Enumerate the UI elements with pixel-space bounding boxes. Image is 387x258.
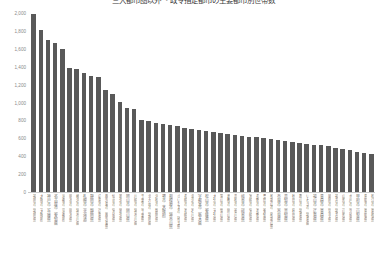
y-axis-tick-label: 1,400 (0, 64, 26, 69)
x-axis-tick-label: 青森市（青森県） (319, 194, 324, 254)
y-axis-tick-label: 1,600 (0, 46, 26, 51)
x-axis-tick-label: 金沢市（石川県） (189, 194, 194, 254)
x-axis-line (28, 192, 375, 193)
y-axis-tick-label: 200 (0, 172, 26, 177)
x-axis-tick-label: 大阪市（大阪府） (38, 194, 43, 254)
bar (154, 123, 158, 192)
bar-series (30, 13, 375, 192)
x-axis-tick-label: 相模原市（神奈川県） (168, 194, 173, 254)
y-axis-tick-label: 1,800 (0, 28, 26, 33)
bar (74, 69, 78, 192)
bar (118, 102, 122, 192)
x-axis-tick-label: 堺市（大阪府） (161, 194, 166, 254)
bar (161, 124, 165, 192)
bar (247, 137, 251, 192)
x-axis-tick-label: 仙台市（宮城県） (110, 194, 115, 254)
x-axis-tick-label: 高知市（高知県） (283, 194, 288, 254)
x-axis-tick-label: 京都市（京都府） (60, 194, 65, 254)
x-axis-tick-label: いわき市（福島県） (304, 194, 309, 254)
bar (146, 121, 150, 192)
x-axis-tick-label: 横浜市（神奈川県） (74, 194, 79, 254)
bar (67, 68, 71, 192)
x-axis-tick-label: 札幌市（北海道） (82, 194, 87, 254)
y-axis-tick-label: 400 (0, 154, 26, 159)
x-axis-tick-label: 倉敷市（岡山県） (225, 194, 230, 254)
x-axis-tick-label: 長野市（長野県） (254, 194, 259, 254)
x-axis-tick-label: 甲府市（山梨県） (355, 194, 360, 254)
x-axis-tick-label: 宮崎市（宮崎県） (247, 194, 252, 254)
bar (168, 125, 172, 192)
bar (89, 76, 93, 192)
bar (233, 135, 237, 192)
bar (125, 108, 129, 192)
x-axis-tick-label: 長崎市（長崎県） (182, 194, 187, 254)
bar (139, 120, 143, 192)
y-axis-tick-label: 1,000 (0, 100, 26, 105)
bar (103, 90, 107, 192)
bar (355, 152, 359, 192)
bar (269, 139, 273, 192)
bar (319, 145, 323, 192)
x-axis-tick-label: 福山市（広島県） (312, 194, 317, 254)
x-axis-tick-label: 新潟市（新潟県） (118, 194, 123, 254)
x-axis-tick-label: 松山市（愛媛県） (204, 194, 209, 254)
bar (60, 49, 64, 192)
x-axis-tick-label: 広島市（広島県） (96, 194, 101, 254)
x-axis-tick-label: 水戸市（茨城県） (348, 194, 353, 254)
bar (283, 141, 287, 192)
x-axis-tick-label: さいたま市（埼玉県） (175, 194, 180, 254)
x-axis-tick-label: 名古屋市（愛知県） (53, 194, 58, 254)
bar (31, 14, 35, 192)
x-axis-tick-label: 山形市（山形県） (340, 194, 345, 254)
x-axis-tick-label: 北九州市（福岡県） (146, 194, 151, 254)
bar (211, 132, 215, 192)
bar (110, 94, 114, 192)
bar (297, 143, 301, 192)
x-axis-tick-label: 浜松市（静岡県） (153, 194, 158, 254)
x-axis-tick-label: 富山市（富山県） (218, 194, 223, 254)
x-axis-tick-label: 鳥取市（鳥取県） (362, 194, 367, 254)
bar (261, 138, 265, 192)
bar (340, 149, 344, 192)
x-axis-tick-label: 盛岡市（岩手県） (326, 194, 331, 254)
x-axis-tick-label: 鹿児島市（鹿児島県） (103, 194, 108, 254)
x-axis-tick-label: 豊田市（愛知県） (261, 194, 266, 254)
x-axis-tick-label: 岐阜市（岐阜県） (240, 194, 245, 254)
y-axis-tick-label: 0 (0, 190, 26, 195)
x-axis-tick-label: 神戸市（兵庫県） (46, 194, 51, 254)
bar (82, 73, 86, 192)
x-axis-tick-label: 宇都宮市（栃木県） (197, 194, 202, 254)
chart-title: 三大都市圏以外 ・政令指定都市の主要都市別世帯数 (0, 0, 387, 5)
bar (312, 145, 316, 192)
bar (39, 30, 43, 192)
x-axis-tick-label: 高松市（香川県） (233, 194, 238, 254)
y-axis-tick-label: 600 (0, 136, 26, 141)
bar (369, 154, 373, 192)
bar (326, 146, 330, 192)
y-axis: 02004006008001,0001,2001,4001,6001,8002,… (0, 13, 28, 192)
bar (53, 43, 57, 192)
x-axis-tick-label: 熊本市（熊本県） (67, 194, 72, 254)
x-axis-tick-label: 秋田市（秋田県） (290, 194, 295, 254)
bar (348, 150, 352, 192)
bar (204, 131, 208, 192)
bar-chart: 三大都市圏以外 ・政令指定都市の主要都市別世帯数 02004006008001,… (0, 0, 387, 258)
x-axis-tick-label: 千葉市（千葉県） (139, 194, 144, 254)
x-axis-tick-label: 岡山市（岡山県） (125, 194, 130, 254)
bar (276, 140, 280, 192)
bar (175, 126, 179, 192)
bar (182, 128, 186, 192)
plot-area (30, 13, 375, 192)
y-axis-tick-label: 800 (0, 118, 26, 123)
bar (240, 136, 244, 192)
y-axis-tick-label: 2,000 (0, 11, 26, 16)
bar (290, 142, 294, 192)
x-axis-tick-label: 大分市（大分県） (211, 194, 216, 254)
x-axis-tick-label: 和歌山市（和歌山県） (268, 194, 273, 254)
x-axis-tick-label: 福井市（福井県） (333, 194, 338, 254)
x-axis-tick-label: 郡山市（福島県） (297, 194, 302, 254)
x-axis-tick-label: 松江市（島根県） (369, 194, 374, 254)
bar (96, 77, 100, 192)
bar (362, 153, 366, 192)
bar (218, 133, 222, 192)
